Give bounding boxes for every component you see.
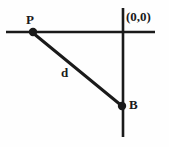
origin-coordinate-label: (0,0) <box>126 10 151 23</box>
point-b-label: B <box>129 98 138 111</box>
segment-p-to-b <box>33 33 122 106</box>
point-p-label: P <box>26 13 34 26</box>
segment-length-label: d <box>61 66 68 79</box>
point-b-marker <box>118 102 126 110</box>
point-p-marker <box>29 28 37 36</box>
geometry-figure: P B d (0,0) <box>0 0 169 147</box>
